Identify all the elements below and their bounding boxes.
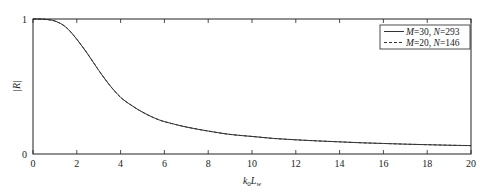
legend-entry-1: M=30, N=293	[405, 27, 460, 37]
x-tick-label: 14	[335, 158, 345, 169]
x-tick-label: 8	[206, 158, 211, 169]
x-tick-label: 12	[291, 158, 301, 169]
x-tick-label: 4	[118, 158, 123, 169]
x-tick-label: 16	[378, 158, 388, 169]
y-axis-ticks: 01	[22, 14, 27, 160]
x-tick-label: 10	[247, 158, 257, 169]
y-tick-label: 0	[22, 149, 27, 160]
x-tick-label: 0	[31, 158, 36, 169]
x-tick-label: 20	[466, 158, 476, 169]
line-chart: 02468101214161820 01 k0Lw |R| M=30, N=29…	[0, 0, 488, 192]
legend-entry-2: M=20, N=146	[405, 38, 460, 48]
y-tick-label: 1	[22, 14, 27, 25]
x-axis-label: k0Lw	[243, 175, 262, 188]
y-axis-label: |R|	[11, 80, 22, 92]
x-tick-label: 2	[74, 158, 79, 169]
x-tick-label: 18	[422, 158, 432, 169]
x-tick-label: 6	[162, 158, 167, 169]
legend: M=30, N=293 M=20, N=146	[380, 25, 470, 49]
